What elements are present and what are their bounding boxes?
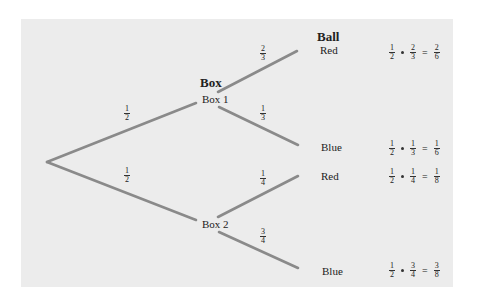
prob-box1-blue: 1 3 bbox=[260, 105, 266, 122]
times-icon bbox=[401, 175, 404, 178]
branch-root-box1 bbox=[47, 103, 196, 162]
outcome-blue-1: Blue bbox=[321, 142, 342, 153]
branch-box1-blue bbox=[219, 107, 298, 145]
equation-row-1: 12 23 = 26 bbox=[389, 44, 440, 61]
prob-box2-blue: 3 4 bbox=[260, 228, 266, 245]
prob-root-box1: 1 2 bbox=[124, 105, 130, 122]
equation-row-2: 12 13 = 16 bbox=[389, 140, 440, 157]
times-icon bbox=[401, 51, 404, 54]
branch-box2-red bbox=[218, 176, 298, 217]
times-icon bbox=[401, 269, 404, 272]
times-icon bbox=[401, 147, 404, 150]
equation-row-4: 12 34 = 38 bbox=[389, 262, 440, 279]
node-box1: Box 1 bbox=[202, 94, 229, 105]
prob-root-box2: 1 2 bbox=[124, 167, 130, 184]
outcome-red-1: Red bbox=[320, 45, 338, 56]
branch-root-box2 bbox=[47, 162, 196, 220]
branch-box1-red bbox=[218, 51, 297, 92]
prob-box2-red: 1 4 bbox=[260, 170, 266, 187]
box-header: Box bbox=[200, 76, 222, 89]
branch-box2-blue bbox=[219, 232, 298, 268]
outcome-blue-2: Blue bbox=[322, 266, 343, 277]
prob-box1-red: 2 3 bbox=[260, 45, 266, 62]
equation-row-3: 12 14 = 18 bbox=[389, 168, 440, 185]
node-box2: Box 2 bbox=[202, 219, 229, 230]
outcome-red-2: Red bbox=[321, 171, 339, 182]
ball-header: Ball bbox=[317, 30, 339, 43]
